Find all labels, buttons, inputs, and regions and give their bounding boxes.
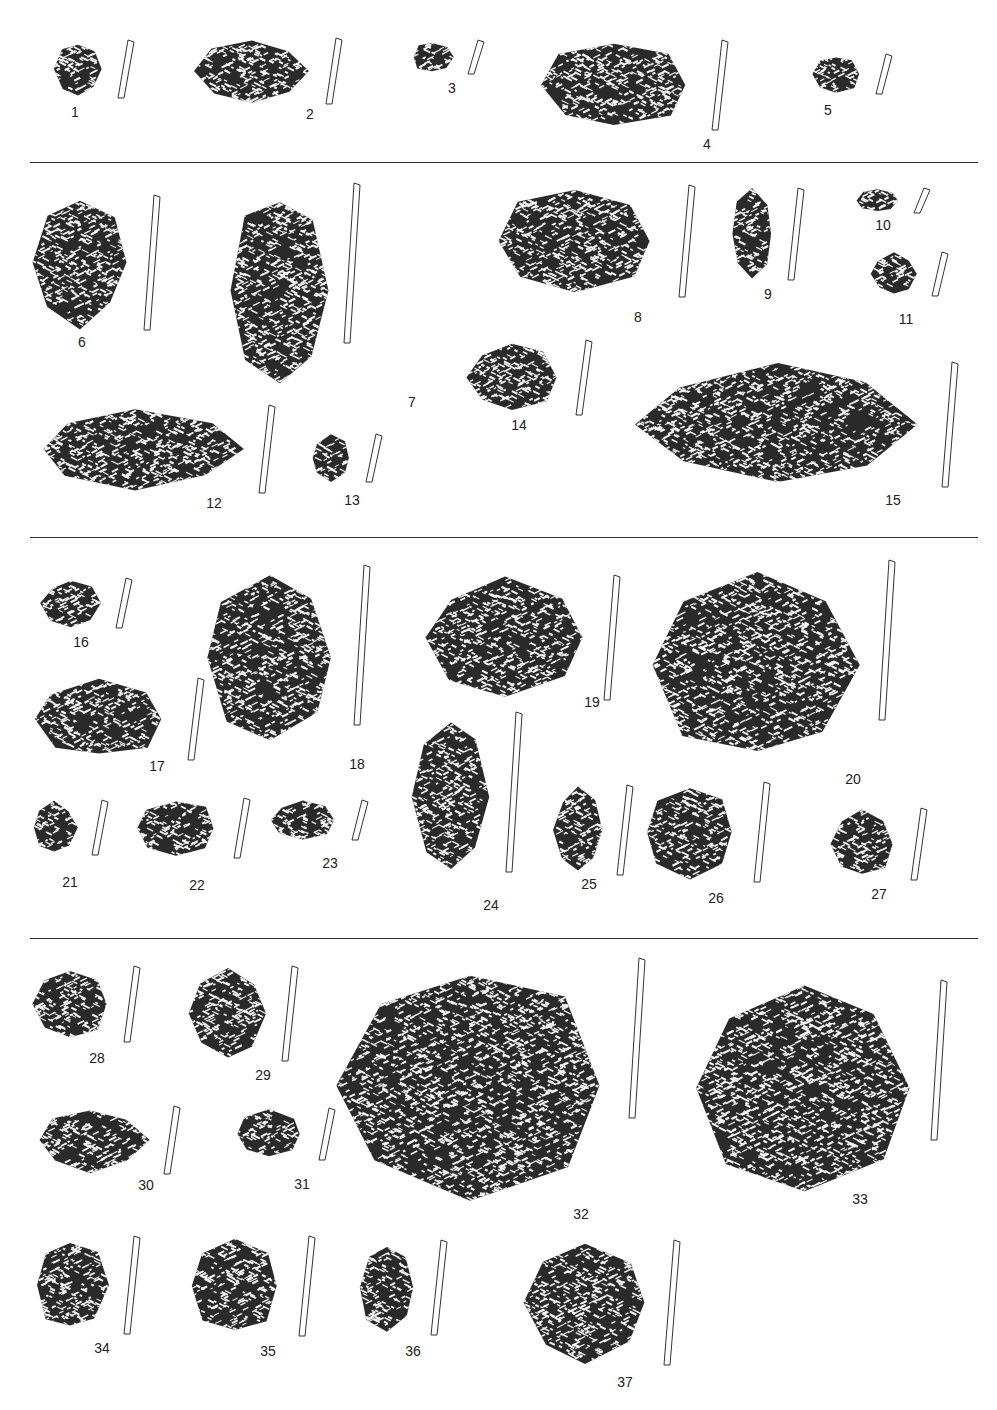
sherd-label-35: 35	[260, 1343, 276, 1359]
sherd-label-19: 19	[584, 694, 600, 710]
sherd-label-34: 34	[94, 1340, 110, 1356]
sherd-27	[827, 808, 897, 880]
sherd-9	[730, 188, 774, 280]
sherd-label-18: 18	[349, 756, 365, 772]
sherd-label-28: 28	[89, 1050, 105, 1066]
sherd-28	[30, 966, 110, 1042]
sherd-25	[553, 785, 603, 875]
sherd-1	[52, 40, 104, 98]
sherd-label-17: 17	[149, 758, 165, 774]
sherd-label-10: 10	[875, 217, 891, 233]
sherd-17	[24, 678, 174, 760]
sherd-18	[200, 565, 340, 750]
sherd-label-2: 2	[306, 106, 314, 122]
sherd-4	[530, 40, 698, 130]
sherd-label-6: 6	[78, 334, 86, 350]
sherd-label-33: 33	[852, 1191, 868, 1207]
sherd-label-1: 1	[71, 104, 79, 120]
sherd-37	[520, 1240, 650, 1365]
sherd-12	[25, 405, 245, 493]
sherd-label-12: 12	[206, 495, 222, 511]
sherd-label-25: 25	[581, 876, 597, 892]
sherd-31	[233, 1108, 305, 1160]
sherd-label-27: 27	[871, 886, 887, 902]
sherd-7	[230, 183, 330, 398]
sherd-21	[30, 800, 78, 855]
sherd-label-37: 37	[617, 1374, 633, 1390]
sherd-10	[855, 188, 900, 213]
sherd-label-32: 32	[573, 1206, 589, 1222]
sherd-5	[810, 54, 862, 94]
sherd-2	[192, 38, 312, 104]
sherd-label-20: 20	[845, 771, 861, 787]
sherd-label-26: 26	[708, 890, 724, 906]
sherd-label-21: 21	[62, 874, 78, 890]
sherd-6	[30, 195, 130, 330]
sherd-label-11: 11	[899, 311, 914, 327]
sherd-3	[410, 40, 454, 74]
sherd-22	[132, 798, 220, 858]
sherd-label-29: 29	[255, 1067, 271, 1083]
sherd-label-23: 23	[322, 855, 338, 871]
sherd-label-3: 3	[448, 80, 456, 96]
sherd-20	[650, 560, 865, 770]
sherd-label-36: 36	[405, 1343, 421, 1359]
sherd-label-13: 13	[344, 492, 360, 508]
sherd-24	[410, 712, 492, 882]
sherd-label-7: 7	[408, 394, 416, 410]
sherd-label-4: 4	[703, 136, 711, 152]
sherd-15	[628, 362, 928, 487]
sherd-30	[30, 1106, 150, 1174]
sherd-11	[870, 252, 918, 296]
sherd-label-14: 14	[511, 417, 527, 433]
sherd-label-30: 30	[138, 1177, 154, 1193]
row-separator-1	[30, 162, 978, 163]
sherd-16	[40, 578, 102, 628]
sherd-23	[268, 800, 338, 840]
sherd-label-24: 24	[483, 897, 499, 913]
sherd-13	[310, 434, 352, 482]
sherd-label-5: 5	[824, 102, 832, 118]
sherd-35	[185, 1236, 285, 1336]
sherd-label-31: 31	[294, 1176, 310, 1192]
sherd-label-8: 8	[634, 309, 642, 325]
sherd-label-22: 22	[189, 877, 205, 893]
sherd-29	[188, 966, 268, 1061]
sherd-34	[30, 1236, 110, 1334]
sherd-32	[325, 958, 615, 1213]
sherd-36	[357, 1240, 417, 1335]
sherd-8	[485, 185, 665, 297]
sherd-label-16: 16	[73, 634, 89, 650]
row-separator-3	[30, 938, 978, 939]
sherd-14	[462, 340, 562, 415]
sherd-26	[640, 782, 740, 882]
sherd-19	[420, 575, 590, 700]
row-separator-2	[30, 537, 978, 538]
sherd-33	[692, 980, 917, 1196]
sherd-label-15: 15	[885, 492, 901, 508]
sherd-label-9: 9	[764, 286, 772, 302]
